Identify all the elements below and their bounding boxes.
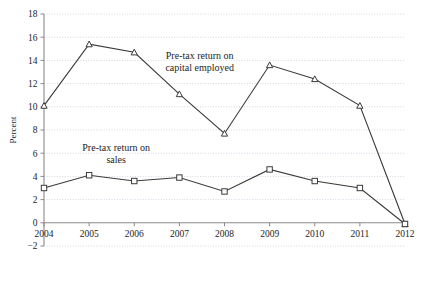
x-tick-label-2011: 2011 xyxy=(351,229,370,239)
y-tick-label-2: 2 xyxy=(33,195,38,205)
y-tick-label-8: 8 xyxy=(33,125,38,135)
x-tick-label-2005: 2005 xyxy=(80,229,99,239)
data-point-2005 xyxy=(86,41,92,47)
y-tick-label-6: 6 xyxy=(33,149,38,159)
x-tick-label-2009: 2009 xyxy=(260,229,279,239)
data-point-2005 xyxy=(86,173,91,178)
y-tick-label-18: 18 xyxy=(28,9,38,19)
data-point-2008 xyxy=(222,189,227,194)
data-point-2006 xyxy=(132,178,137,183)
y-tick-label-16: 16 xyxy=(28,33,38,43)
data-point-2012 xyxy=(402,221,407,226)
y-tick-label-14: 14 xyxy=(28,56,38,66)
data-point-2010 xyxy=(312,178,317,183)
annotation-capital-employed: Pre-tax return oncapital employed xyxy=(165,50,234,73)
y-tick-label-10: 10 xyxy=(28,102,38,112)
y-axis-group: −2024681012141618 xyxy=(27,9,44,251)
data-point-2009 xyxy=(267,62,273,68)
data-point-2011 xyxy=(357,185,362,190)
y-axis-title: Percent xyxy=(8,116,18,143)
x-tick-label-2007: 2007 xyxy=(170,229,189,239)
y-axis-title-group: Percent xyxy=(8,116,18,143)
annotation-capital-employed-line-2: capital employed xyxy=(165,62,234,73)
annotation-sales: Pre-tax return onsales xyxy=(82,142,150,165)
annotation-sales-line-2: sales xyxy=(106,154,126,165)
x-axis-group: 200420052006200720082009201020112012 xyxy=(35,223,415,239)
x-tick-label-2010: 2010 xyxy=(305,229,324,239)
data-point-2004 xyxy=(41,185,46,190)
annotations-group: Pre-tax return oncapital employedPre-tax… xyxy=(82,50,234,165)
series-line xyxy=(44,169,405,224)
x-tick-label-2012: 2012 xyxy=(396,229,415,239)
y-tick-label-0: 0 xyxy=(33,218,38,228)
line-chart: −2024681012141618 2004200520062007200820… xyxy=(0,0,423,284)
data-point-2011 xyxy=(357,103,363,109)
data-point-2009 xyxy=(267,167,272,172)
series-sales xyxy=(41,167,407,227)
y-tick-label--2: −2 xyxy=(27,241,37,251)
data-point-2007 xyxy=(177,175,182,180)
x-tick-label-2006: 2006 xyxy=(125,229,144,239)
y-tick-label-12: 12 xyxy=(28,79,38,89)
annotation-sales-line-1: Pre-tax return on xyxy=(82,142,150,153)
annotation-capital-employed-line-1: Pre-tax return on xyxy=(166,50,234,61)
chart-root: −2024681012141618 2004200520062007200820… xyxy=(0,0,423,284)
y-tick-label-4: 4 xyxy=(33,172,38,182)
x-tick-label-2008: 2008 xyxy=(215,229,234,239)
x-tick-label-2004: 2004 xyxy=(35,229,54,239)
